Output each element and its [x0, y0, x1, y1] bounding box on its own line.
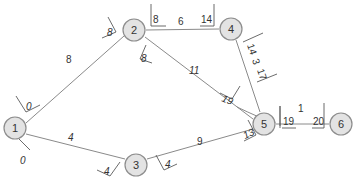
node-3-label: 3 — [133, 159, 139, 171]
edge-1-3 — [26, 134, 125, 159]
edge-5-6-end: 20 — [313, 116, 325, 127]
node-6-label: 6 — [338, 118, 344, 130]
edge-2-4-duration: 6 — [178, 16, 184, 27]
edge-3-5-start: 4 — [165, 159, 171, 170]
edge-4-5-duration: 3 — [250, 57, 262, 66]
edge-4-5-end: 17 — [255, 67, 269, 81]
edge-5-6-duration: 1 — [298, 103, 304, 114]
edge-1-2-start: 0 — [26, 101, 32, 112]
edge-2-4 — [146, 29, 219, 30]
edge-2-5-end: 19 — [220, 93, 235, 108]
node-5: 5 — [253, 113, 275, 135]
network-diagram: 0 8 8 0 4 4 8 6 14 8 11 19 4 9 13 14 3 1… — [0, 0, 359, 185]
edge-1-3-end: 4 — [104, 166, 110, 177]
node-3: 3 — [125, 154, 147, 176]
node-4-label: 4 — [228, 23, 234, 35]
node-1-label: 1 — [12, 122, 18, 134]
node-2-label: 2 — [131, 24, 137, 36]
edge-1-2-duration: 8 — [66, 54, 72, 65]
edge-1-2-end: 8 — [107, 27, 113, 38]
edge-2-4-start: 8 — [153, 14, 159, 25]
bracket-4-5-start-top — [243, 33, 263, 42]
node-6: 6 — [330, 113, 352, 135]
node-1: 1 — [4, 117, 26, 139]
node-5-label: 5 — [261, 118, 267, 130]
edge-3-5-duration: 9 — [197, 136, 203, 147]
edge-2-5 — [145, 37, 253, 119]
node-2: 2 — [123, 19, 145, 41]
edge-5-6-start: 19 — [283, 116, 295, 127]
edge-2-5-duration: 11 — [189, 65, 199, 76]
edge-1-3-start: 0 — [20, 155, 26, 166]
node-4: 4 — [220, 18, 242, 40]
edge-2-4-end: 14 — [201, 14, 213, 25]
edge-2-5-start: 8 — [141, 53, 147, 64]
edge-1-2 — [26, 36, 124, 123]
edge-4-5-start: 14 — [245, 42, 259, 56]
edge-1-3-duration: 4 — [68, 132, 74, 143]
